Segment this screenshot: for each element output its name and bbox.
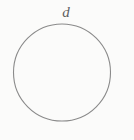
diameter-label: d — [62, 4, 70, 20]
background-rect — [0, 0, 134, 140]
circle-diagram: d — [0, 0, 134, 140]
figure-canvas: d — [0, 0, 134, 140]
